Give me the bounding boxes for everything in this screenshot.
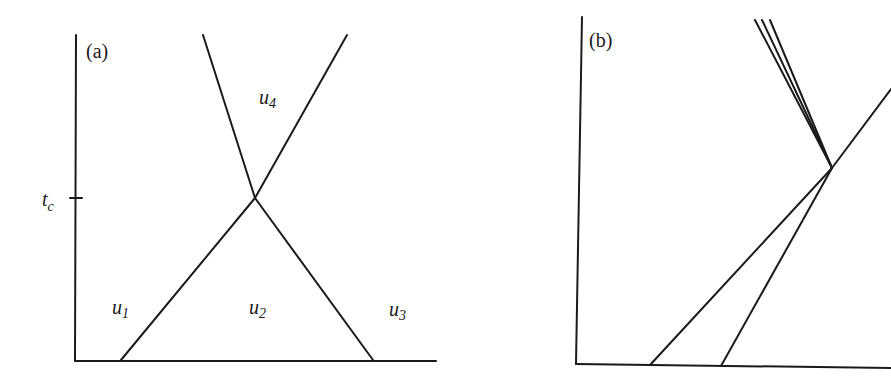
line-b-continuation	[832, 89, 891, 168]
region-u3: u3	[389, 298, 406, 323]
line-left-lower	[121, 198, 255, 360]
y-axis-b	[576, 17, 582, 364]
tc-label: tc	[42, 188, 55, 214]
region-u4: u4	[259, 86, 276, 111]
line-left-upper	[203, 35, 255, 198]
panel-label-b: (b)	[589, 29, 612, 52]
line-right-lower	[255, 198, 373, 360]
line-b-right	[721, 168, 832, 366]
region-u2: u2	[249, 296, 266, 321]
panel-b: (b)	[576, 17, 891, 368]
fan-line-2	[762, 20, 832, 168]
line-b-left	[650, 168, 832, 365]
x-axis-b	[576, 364, 891, 368]
panel-a: (a) tc u1 u2 u3 u4	[42, 35, 436, 361]
figure-canvas: (a) tc u1 u2 u3 u4 (b)	[0, 0, 891, 382]
panel-label-a: (a)	[86, 40, 108, 63]
region-u1: u1	[112, 296, 129, 321]
fan-line-3	[770, 20, 832, 168]
line-right-upper	[255, 35, 347, 198]
